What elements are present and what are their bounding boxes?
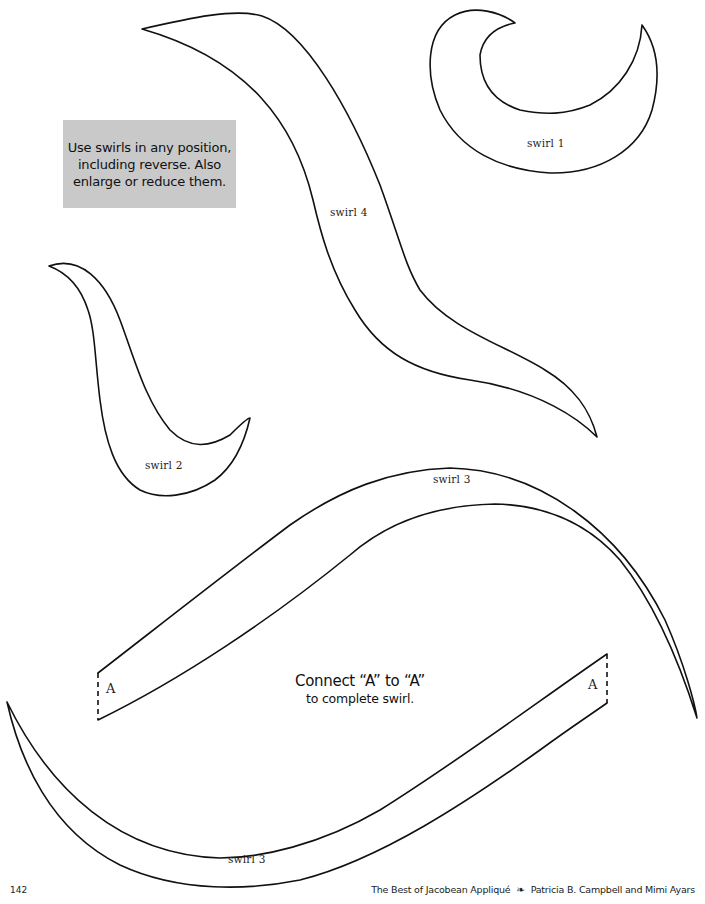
usage-note-line-3: enlarge or reduce them. xyxy=(73,173,226,190)
usage-note-box: Use swirls in any position, including re… xyxy=(63,120,236,208)
authors: Patricia B. Campbell and Mimi Ayars xyxy=(531,884,695,895)
connect-instruction: Connect “A” to “A” to complete swirl. xyxy=(250,672,470,707)
page-number: 142 xyxy=(10,885,27,895)
ornament-icon: ❧ xyxy=(516,884,524,895)
join-mark-right: A xyxy=(588,677,597,692)
connect-instruction-line-1: Connect “A” to “A” xyxy=(250,672,470,691)
book-title: The Best of Jacobean Appliqué xyxy=(371,884,510,895)
swirl-3-lower-label: swirl 3 xyxy=(228,853,266,865)
swirl-4-label: swirl 4 xyxy=(330,206,368,218)
swirl-4-outline xyxy=(142,13,597,437)
swirl-2-label: swirl 2 xyxy=(145,459,183,471)
usage-note-line-1: Use swirls in any position, xyxy=(68,139,232,156)
join-mark-left: A xyxy=(106,681,115,696)
footer-credit: The Best of Jacobean Appliqué❧Patricia B… xyxy=(371,884,695,895)
swirl-1-label: swirl 1 xyxy=(527,137,565,149)
usage-note-line-2: including reverse. Also xyxy=(78,156,221,173)
swirl-3-upper-label: swirl 3 xyxy=(433,473,471,485)
connect-instruction-line-2: to complete swirl. xyxy=(250,691,470,707)
